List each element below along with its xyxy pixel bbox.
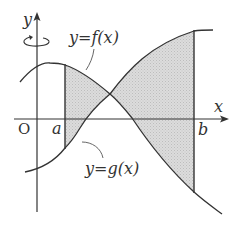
- x-axis: [14, 116, 229, 123]
- g-curve-label: y=g(x): [84, 159, 139, 178]
- f-curve-label: y=f(x): [68, 28, 119, 47]
- leader-g: [82, 142, 103, 158]
- leader-f: [86, 49, 94, 70]
- a-label: a: [52, 119, 62, 138]
- origin-label: O: [18, 120, 30, 138]
- b-label: b: [198, 120, 208, 139]
- area-between-curves-diagram: y x O a b y=f(x) y=g(x): [0, 0, 243, 233]
- y-axis-label: y: [22, 10, 33, 29]
- x-axis-label: x: [214, 97, 223, 116]
- y-axis: [34, 12, 41, 212]
